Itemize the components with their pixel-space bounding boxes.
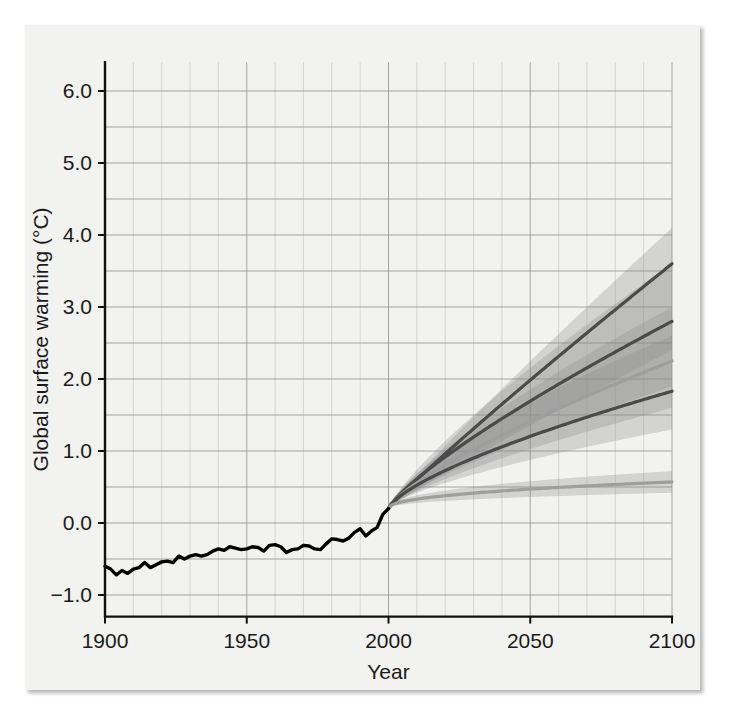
y-axis-title: Global surface warming (°C)	[29, 207, 52, 471]
chart-svg: −1.00.01.02.03.04.05.06.0 19001950200020…	[0, 0, 741, 718]
x-tick-label: 2000	[365, 629, 412, 652]
y-tick-label: 5.0	[63, 151, 92, 174]
y-tick-label: 3.0	[63, 295, 92, 318]
x-axis-tick-labels: 19001950200020502100	[82, 629, 696, 652]
x-tick-label: 2100	[649, 629, 696, 652]
x-tick-label: 1900	[82, 629, 129, 652]
x-tick-label: 1950	[223, 629, 270, 652]
y-axis-tick-labels: −1.00.01.02.03.04.05.06.0	[51, 79, 92, 606]
y-tick-label: 6.0	[63, 79, 92, 102]
y-tick-label: 2.0	[63, 367, 92, 390]
y-tick-label: 0.0	[63, 511, 92, 534]
x-axis-title: Year	[367, 660, 409, 683]
climate-projection-chart: −1.00.01.02.03.04.05.06.0 19001950200020…	[0, 0, 741, 718]
x-tick-label: 2050	[507, 629, 554, 652]
y-tick-label: 1.0	[63, 439, 92, 462]
y-tick-label: −1.0	[51, 583, 92, 606]
y-tick-label: 4.0	[63, 223, 92, 246]
